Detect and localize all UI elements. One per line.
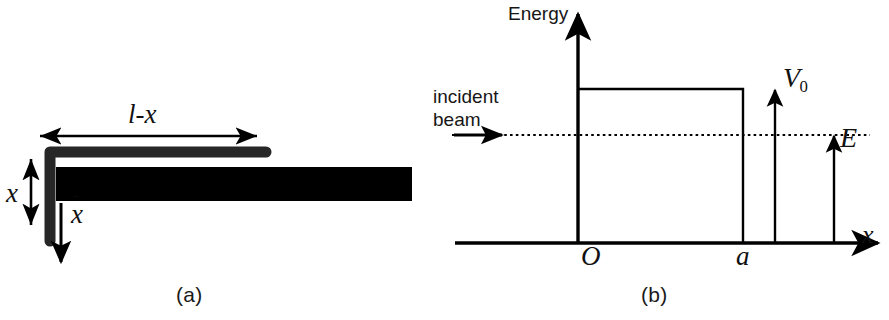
label-acceleration-x-ddot: ¨x (71, 201, 83, 228)
panel-a-drawing (0, 0, 445, 320)
v0-subscript: 0 (799, 77, 807, 96)
label-incident-beam: incident beam (433, 85, 499, 131)
label-barrier-edge-a: a (736, 243, 750, 270)
label-length-x: x (6, 180, 18, 207)
panel-a-falling-rod: l-x x ¨x (a) (0, 0, 445, 320)
label-barrier-height-v0: V0 (783, 64, 808, 96)
label-particle-energy-e: E (840, 124, 857, 152)
label-origin-o: O (581, 243, 601, 270)
physics-figure: l-x x ¨x (a) (0, 0, 889, 320)
double-dot-accent: ¨ (74, 193, 81, 208)
panel-b-drawing (430, 0, 889, 320)
incident-beam-line-2: beam (433, 108, 499, 131)
panel-b-potential-barrier: Energy incident beam (430, 0, 889, 320)
label-length-l-minus-x: l-x (128, 101, 156, 128)
label-x-axis-symbol: x (862, 222, 874, 248)
v0-base-symbol: V (783, 62, 800, 93)
caption-panel-a: (a) (176, 283, 203, 307)
label-energy-axis: Energy (508, 2, 568, 25)
table-block (56, 167, 412, 201)
caption-panel-b: (b) (641, 283, 668, 307)
incident-beam-line-1: incident (433, 85, 499, 108)
potential-barrier-curve (578, 89, 743, 243)
